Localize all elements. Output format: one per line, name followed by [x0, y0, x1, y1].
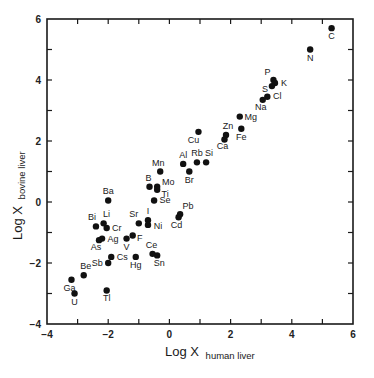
point-label: P	[264, 67, 270, 77]
point-marker	[157, 168, 163, 174]
y-axis-title: Log X bovine liver	[10, 151, 27, 240]
data-point-n: N	[307, 46, 314, 62]
data-point-ni: Ni	[145, 221, 162, 231]
point-label: B	[146, 173, 152, 183]
point-marker	[194, 159, 200, 165]
y-tick-label: 0	[35, 197, 41, 208]
point-marker	[180, 161, 186, 167]
point-marker	[203, 159, 209, 165]
point-marker	[93, 223, 99, 229]
point-marker	[154, 187, 160, 193]
y-tick-label: 2	[35, 136, 41, 147]
data-point-si: Si	[203, 148, 213, 165]
y-axis-title-subscript: bovine liver	[16, 151, 27, 199]
data-point-tl: Tl	[103, 287, 111, 303]
data-point-ga: Ga	[63, 277, 75, 293]
scatter-chart: −4−20246 −4−20246 CNPKSClNaMgFeZnCaCuAlR…	[0, 0, 374, 378]
x-tick-label: 6	[350, 329, 356, 340]
point-label: Al	[179, 150, 187, 160]
point-label: Cu	[188, 135, 200, 145]
y-tick-label: −2	[30, 258, 42, 269]
data-point-cd: Cd	[171, 214, 183, 230]
data-point-b: B	[146, 173, 153, 190]
x-tick-label: −4	[41, 329, 53, 340]
point-label: As	[91, 242, 102, 252]
data-point-sr: Sr	[129, 209, 142, 226]
plot-border	[47, 19, 353, 324]
data-point-mn: Mn	[152, 158, 165, 175]
data-point-u: U	[71, 290, 78, 306]
x-axis-title: Log X human liver	[165, 344, 255, 361]
point-label: Ba	[103, 186, 114, 196]
point-label: Rb	[191, 148, 203, 158]
data-point-ca: Ca	[217, 136, 229, 151]
data-point-al: Al	[179, 150, 187, 167]
data-point-ag: Ag	[99, 234, 119, 244]
point-label: Zn	[223, 121, 234, 131]
point-label: I	[147, 206, 150, 216]
point-marker	[105, 197, 111, 203]
point-label: U	[71, 297, 78, 307]
data-point-i: I	[145, 206, 151, 223]
point-label: C	[328, 31, 335, 41]
point-label: Ni	[154, 221, 163, 231]
data-point-zn: Zn	[223, 121, 234, 138]
y-axis-title-main: Log X	[10, 206, 25, 240]
point-label: Mo	[162, 177, 175, 187]
x-tick-label: −2	[102, 329, 114, 340]
point-label: Ca	[217, 141, 229, 151]
data-point-sb: Sb	[92, 258, 112, 268]
y-tick-label: −4	[30, 319, 42, 330]
data-point-cs: Cs	[108, 252, 128, 262]
point-label: Bi	[88, 212, 96, 222]
point-label: V	[124, 242, 130, 252]
point-label: Pb	[183, 201, 194, 211]
data-point-bi: Bi	[88, 212, 99, 229]
point-label: Br	[185, 175, 194, 185]
point-label: F	[137, 233, 143, 243]
data-point-hg: Hg	[130, 254, 142, 270]
point-marker	[145, 222, 151, 228]
data-point-se: Se	[151, 195, 171, 205]
point-label: Cd	[171, 220, 183, 230]
data-point-mg: Mg	[237, 112, 257, 122]
data-points: CNPKSClNaMgFeZnCaCuAlRbSiBrMnBMoTiSePbCd…	[63, 25, 335, 307]
point-marker	[146, 184, 152, 190]
point-marker	[269, 83, 275, 89]
x-axis-ticks: −4−20246	[41, 19, 356, 340]
x-tick-label: 4	[289, 329, 295, 340]
point-label: K	[281, 78, 287, 88]
point-label: Cl	[273, 91, 282, 101]
data-point-v: V	[123, 235, 129, 251]
data-point-li: Li	[100, 209, 110, 226]
point-label: Sn	[154, 258, 165, 268]
x-tick-label: 0	[167, 329, 173, 340]
data-point-cu: Cu	[188, 129, 202, 145]
point-marker	[129, 232, 135, 238]
point-label: Tl	[103, 293, 111, 303]
point-label: Sr	[129, 209, 138, 219]
data-point-f: F	[129, 232, 142, 242]
point-marker	[136, 220, 142, 226]
data-point-sn: Sn	[154, 252, 165, 268]
point-label: Sb	[92, 258, 103, 268]
point-label: Cr	[112, 223, 122, 233]
point-label: Na	[255, 102, 267, 112]
data-point-c: C	[328, 25, 335, 41]
x-axis-title-subscript: human liver	[206, 350, 255, 361]
point-label: Cs	[117, 252, 128, 262]
point-marker	[108, 254, 114, 260]
point-marker	[151, 197, 157, 203]
point-marker	[105, 260, 111, 266]
plot-frame	[47, 19, 353, 324]
data-point-be: Be	[80, 261, 91, 278]
data-point-na: Na	[255, 97, 267, 112]
data-point-as: As	[91, 237, 102, 252]
point-label: Li	[103, 209, 110, 219]
point-label: Mg	[245, 112, 258, 122]
x-tick-label: 2	[228, 329, 234, 340]
point-label: S	[262, 84, 268, 94]
point-label: Ag	[108, 234, 119, 244]
data-point-ba: Ba	[103, 186, 114, 203]
point-label: Hg	[130, 260, 142, 270]
